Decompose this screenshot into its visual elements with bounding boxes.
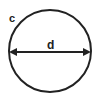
circumference-label: c (9, 12, 15, 24)
arrowhead-right-icon (83, 48, 91, 56)
circle-diagram: c d (0, 0, 98, 101)
diameter-label: d (47, 38, 54, 52)
arrowhead-left-icon (9, 48, 17, 56)
